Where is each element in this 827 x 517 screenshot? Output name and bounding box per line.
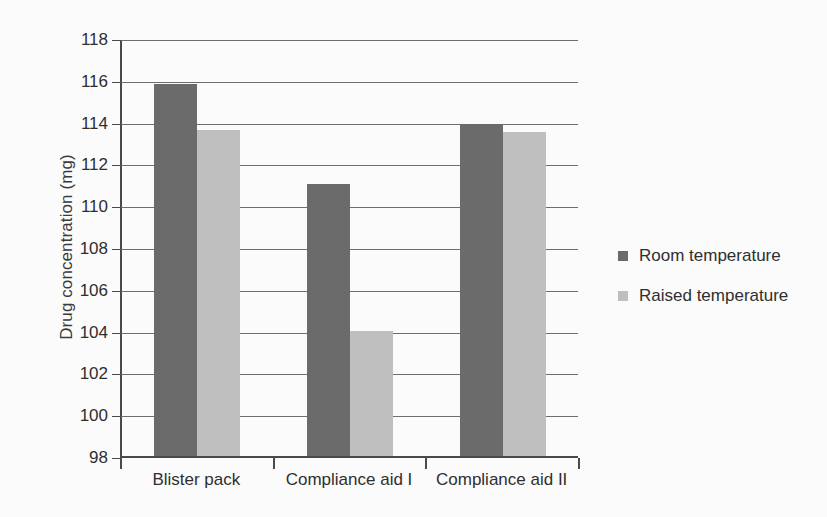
y-tick-mark <box>112 207 121 208</box>
bar <box>307 184 350 456</box>
legend-label-raised-temperature: Raised temperature <box>639 286 788 306</box>
y-tick-label: 108 <box>80 239 108 259</box>
y-tick-mark <box>112 249 121 250</box>
x-category-label: Compliance aid II <box>436 470 567 490</box>
plot-area: 98100102104106108110112114116118 <box>120 40 578 458</box>
gridline <box>120 40 578 41</box>
bar <box>350 331 393 456</box>
y-tick-mark <box>112 40 121 41</box>
y-tick-mark <box>112 165 121 166</box>
x-tick-mark <box>273 458 275 469</box>
legend: Room temperature Raised temperature <box>618 236 788 316</box>
y-tick-mark <box>112 124 121 125</box>
bar <box>154 84 197 456</box>
y-axis-title: Drug concentration (mg) <box>57 97 77 397</box>
y-tick-mark <box>112 82 121 83</box>
y-tick-label: 110 <box>81 197 108 217</box>
bar <box>503 132 546 456</box>
y-tick-label: 100 <box>80 406 108 426</box>
y-tick-label: 106 <box>80 281 108 301</box>
y-tick-mark <box>112 374 121 375</box>
y-tick-mark <box>112 416 121 417</box>
bar <box>460 124 503 456</box>
legend-item-raised-temperature: Raised temperature <box>618 276 788 316</box>
x-category-label: Compliance aid I <box>286 470 413 490</box>
y-tick-label: 116 <box>81 72 108 92</box>
legend-label-room-temperature: Room temperature <box>639 246 781 266</box>
y-tick-mark <box>112 291 121 292</box>
x-axis-line <box>120 456 578 458</box>
y-tick-label: 114 <box>81 114 108 134</box>
bar <box>197 130 240 456</box>
y-tick-label: 104 <box>80 323 108 343</box>
legend-swatch-icon-room-temperature <box>618 251 628 261</box>
y-tick-mark <box>112 333 121 334</box>
gridline <box>120 82 578 83</box>
y-tick-label: 98 <box>89 448 108 468</box>
x-tick-mark <box>425 458 427 469</box>
chart-figure: Drug concentration (mg) 9810010210410610… <box>0 0 827 517</box>
x-tick-mark <box>120 458 122 469</box>
x-tick-mark <box>578 458 580 469</box>
x-category-label: Blister pack <box>152 470 240 490</box>
y-tick-label: 102 <box>80 364 108 384</box>
y-tick-label: 112 <box>81 155 108 175</box>
legend-swatch-icon-raised-temperature <box>618 291 628 301</box>
y-tick-label: 118 <box>81 30 108 50</box>
legend-item-room-temperature: Room temperature <box>618 236 788 276</box>
